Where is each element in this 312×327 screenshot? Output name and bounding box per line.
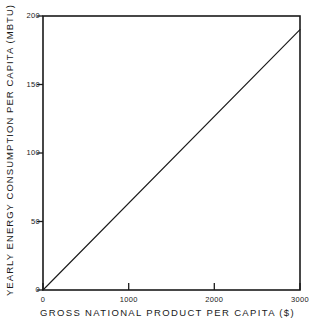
plot-frame: [43, 16, 300, 290]
chart-figure: YEARLY ENERGY CONSUMPTION PER CAPITA (MB…: [0, 0, 312, 327]
plot-area: [0, 0, 312, 327]
y-axis-ticks: [37, 16, 43, 290]
